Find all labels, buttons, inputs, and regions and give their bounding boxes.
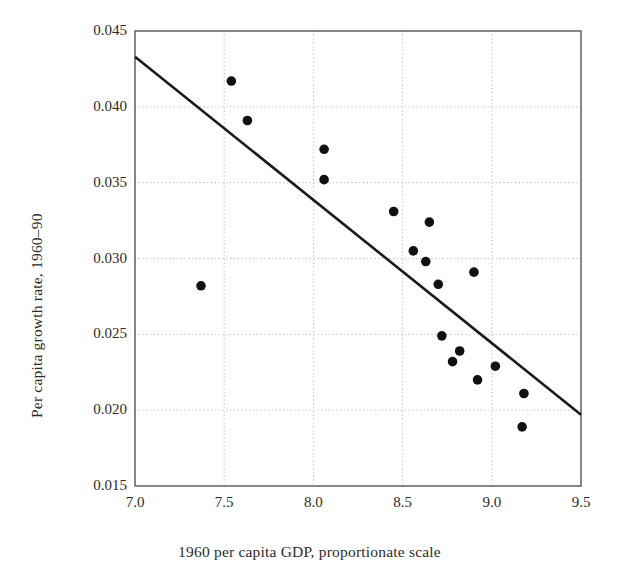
plot-background [135, 31, 581, 486]
x-tick-label: 9.5 [546, 494, 616, 511]
y-tick-label: 0.045 [57, 22, 127, 39]
data-point [389, 207, 399, 217]
data-point [409, 246, 419, 256]
y-tick-label: 0.020 [57, 401, 127, 418]
data-point [227, 76, 237, 86]
data-point [433, 279, 443, 289]
x-tick-label: 7.0 [100, 494, 170, 511]
x-tick-label: 7.5 [189, 494, 259, 511]
data-point [519, 389, 529, 399]
data-point [437, 331, 447, 341]
data-point [469, 267, 479, 277]
data-point [421, 257, 431, 267]
x-tick-label: 9.0 [457, 494, 527, 511]
data-point [319, 175, 329, 185]
data-point [473, 375, 483, 385]
data-point [491, 361, 501, 371]
x-tick-label: 8.5 [368, 494, 438, 511]
scatter-plot-figure: Per capita growth rate, 1960–90 1960 per… [0, 0, 619, 580]
data-point [425, 217, 435, 227]
data-point [455, 346, 465, 356]
y-tick-label: 0.040 [57, 98, 127, 115]
y-tick-label: 0.030 [57, 250, 127, 267]
data-point [196, 281, 206, 291]
x-tick-label: 8.0 [278, 494, 348, 511]
data-point [448, 357, 458, 367]
data-point [319, 145, 329, 155]
y-tick-label: 0.025 [57, 325, 127, 342]
y-tick-label: 0.035 [57, 174, 127, 191]
data-point [517, 422, 527, 432]
y-tick-label: 0.015 [57, 477, 127, 494]
data-point [243, 116, 253, 126]
